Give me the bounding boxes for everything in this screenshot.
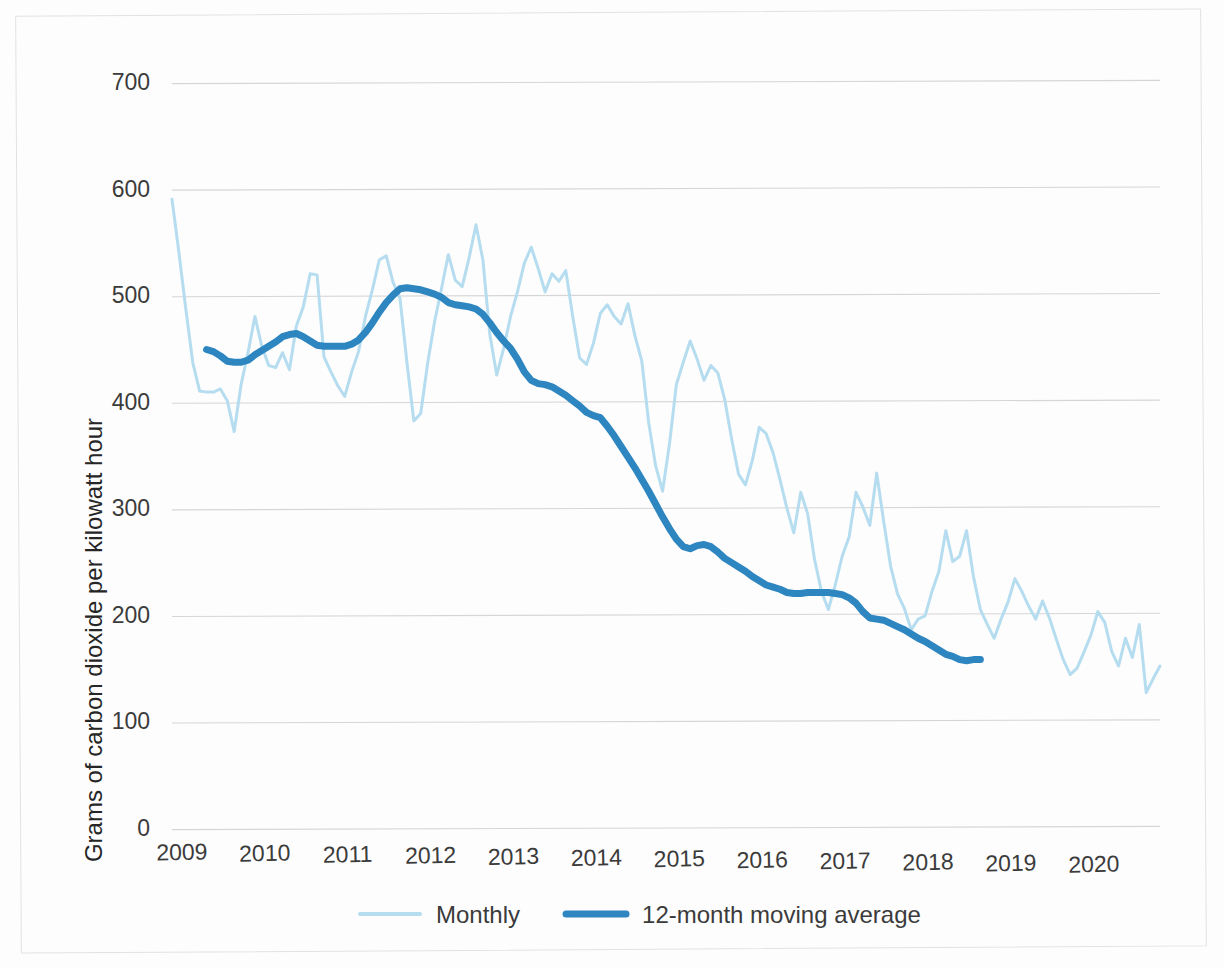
y-tick-label-200: 200 — [112, 602, 150, 628]
x-tick-label-2016: 2016 — [736, 846, 788, 873]
x-tick-label-2015: 2015 — [653, 845, 705, 872]
y-tick-label-100: 100 — [112, 708, 150, 734]
chart-svg: 7006005004003002001000 20092010201120122… — [0, 0, 1224, 968]
gridline-700 — [172, 80, 1160, 83]
line-chart: 7006005004003002001000 20092010201120122… — [0, 0, 1224, 968]
x-tick-label-2011: 2011 — [323, 841, 373, 868]
y-axis-tick-labels: 7006005004003002001000 — [112, 69, 150, 841]
y-tick-label-400: 400 — [112, 389, 150, 415]
gridline-400 — [172, 400, 1160, 403]
x-tick-label-2017: 2017 — [819, 847, 871, 874]
y-tick-label-0: 0 — [137, 815, 150, 841]
series-line-monthly — [172, 199, 1160, 692]
y-tick-label-500: 500 — [112, 282, 150, 308]
legend-label-moving-average: 12-month moving average — [642, 901, 921, 928]
x-tick-label-2020: 2020 — [1068, 851, 1120, 878]
gridlines-group — [172, 80, 1160, 829]
gridline-100 — [172, 720, 1160, 723]
x-tick-label-2010: 2010 — [239, 840, 291, 867]
x-tick-label-2012: 2012 — [405, 842, 457, 869]
y-axis-title: Grams of carbon dioxide per kilowatt hou… — [80, 418, 107, 862]
gridline-600 — [172, 187, 1160, 190]
x-tick-label-2018: 2018 — [902, 848, 954, 875]
x-axis-tick-labels: 2009201020112012201320142015201620172018… — [156, 838, 1120, 877]
gridline-0 — [172, 826, 1160, 829]
x-tick-label-2009: 2009 — [156, 838, 208, 865]
y-tick-label-700: 700 — [112, 69, 150, 95]
gridline-300 — [172, 507, 1160, 510]
legend-label-monthly: Monthly — [436, 901, 520, 928]
x-tick-label-2014: 2014 — [571, 844, 623, 871]
chart-page: 7006005004003002001000 20092010201120122… — [0, 0, 1224, 968]
y-tick-label-300: 300 — [112, 495, 150, 521]
chart-legend: Monthly12-month moving average — [360, 901, 921, 928]
gridline-200 — [172, 613, 1160, 616]
x-tick-label-2019: 2019 — [985, 849, 1037, 876]
x-tick-label-2013: 2013 — [488, 843, 540, 870]
y-tick-label-600: 600 — [112, 176, 150, 202]
